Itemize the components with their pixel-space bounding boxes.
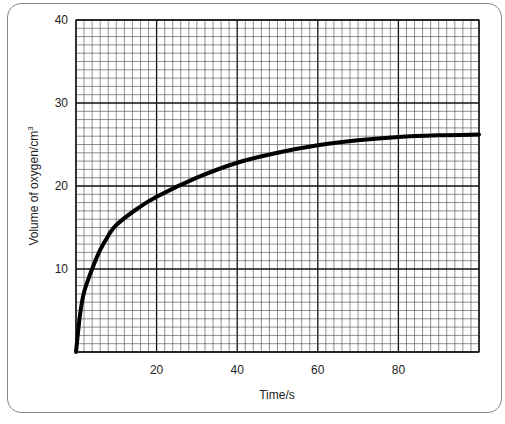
y-tick-label: 20 — [55, 179, 69, 193]
x-tick-label: 80 — [392, 363, 406, 377]
y-tick-label: 40 — [55, 13, 69, 27]
y-tick-label: 30 — [55, 96, 69, 110]
axis-ticks: 2040608010203040 — [55, 13, 406, 377]
x-tick-label: 20 — [150, 363, 164, 377]
grid-lines — [76, 20, 479, 352]
y-tick-label: 10 — [55, 262, 69, 276]
x-tick-label: 60 — [311, 363, 325, 377]
line-chart: 2040608010203040 Time/s Volume of oxygen… — [0, 0, 505, 424]
x-axis-label: Time/s — [259, 388, 295, 402]
x-tick-label: 40 — [231, 363, 245, 377]
y-axis-label: Volume of oxygen/cm3 — [26, 126, 41, 246]
